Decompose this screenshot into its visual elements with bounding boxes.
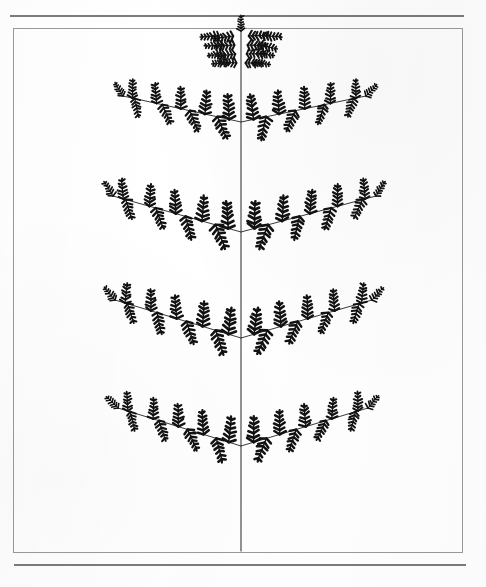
fractal-fern-figure [0,0,486,587]
fern-root-group [102,15,386,551]
document-page [0,0,486,587]
